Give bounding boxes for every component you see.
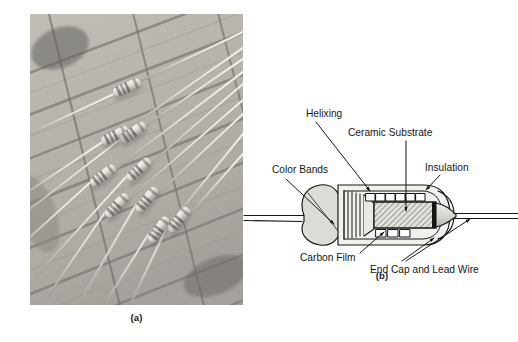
label-carbon-film: Carbon Film bbox=[300, 252, 355, 263]
panel-a-photograph bbox=[30, 14, 243, 305]
helixing-segments-lower bbox=[376, 230, 410, 238]
figure-root: (a) bbox=[0, 0, 518, 342]
left-lead-wire bbox=[244, 216, 304, 222]
photo-frame bbox=[30, 14, 243, 305]
panel-a-caption: (a) bbox=[0, 312, 273, 323]
resistor-construction-diagram: Helixing Ceramic Substrate Color Bands I… bbox=[258, 95, 518, 275]
resistors-photograph bbox=[30, 14, 243, 305]
right-lead-wire bbox=[454, 214, 518, 219]
label-color-bands: Color Bands bbox=[272, 164, 328, 175]
label-insulation: Insulation bbox=[425, 162, 469, 173]
panel-b-diagram: Helixing Ceramic Substrate Color Bands I… bbox=[258, 95, 518, 275]
ceramic-substrate-core bbox=[374, 202, 436, 228]
helixing-segments bbox=[366, 194, 425, 202]
label-ceramic-substrate: Ceramic Substrate bbox=[348, 127, 433, 138]
label-helixing: Helixing bbox=[306, 108, 343, 119]
panel-b-caption: (b) bbox=[258, 270, 506, 281]
